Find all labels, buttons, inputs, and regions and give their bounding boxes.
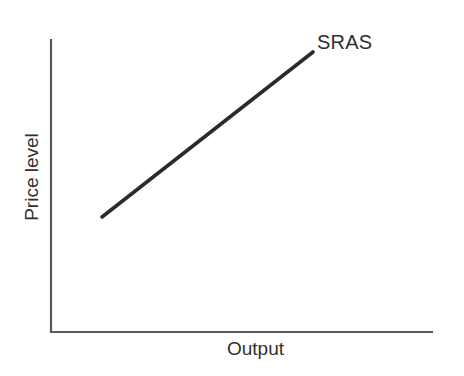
x-axis-label: Output [227,338,284,360]
sras-curve-label: SRAS [317,31,372,54]
y-axis-label: Price level [21,133,43,221]
diagram-canvas [0,0,464,376]
sras-diagram-figure: SRAS Output Price level [0,0,464,376]
sras-curve [102,52,313,217]
